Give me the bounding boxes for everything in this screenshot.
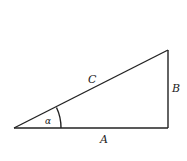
label-a: A: [99, 133, 108, 146]
label-c: C: [88, 73, 97, 86]
side-c: [14, 50, 168, 128]
angle-arc: [57, 108, 62, 129]
label-b: B: [171, 82, 180, 95]
triangle-diagram: C B A α: [0, 0, 187, 161]
label-alpha: α: [45, 116, 51, 126]
